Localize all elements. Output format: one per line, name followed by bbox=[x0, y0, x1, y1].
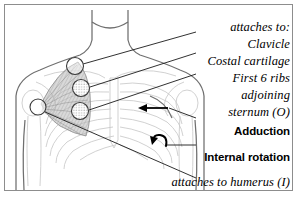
action-label-adduction: Adduction bbox=[234, 126, 290, 138]
origin-label-adjoining: adjoining bbox=[241, 89, 290, 102]
origin-label-sternum: sternum (O) bbox=[228, 106, 290, 119]
skeleton-ribcage bbox=[22, 71, 198, 186]
origin-label-clavicle: Clavicle bbox=[248, 38, 290, 51]
insertion-label-humerus: attaches to humerus (I) bbox=[171, 176, 290, 189]
clavicle-attachment-point bbox=[67, 58, 84, 75]
ribs-attachment-point bbox=[72, 103, 89, 120]
attaches-to-header: attaches to: bbox=[230, 21, 290, 34]
origin-label-costal-cartilage: Costal cartilage bbox=[207, 55, 290, 68]
anatomy-figure: attaches to: Clavicle Costal cartilage F… bbox=[0, 0, 299, 198]
costal-cartilage-attachment-point bbox=[73, 80, 90, 97]
humerus-attachment-point bbox=[30, 99, 46, 115]
action-label-internal-rotation: Internal rotation bbox=[204, 152, 290, 164]
origin-label-first-6-ribs: First 6 ribs bbox=[233, 72, 290, 85]
